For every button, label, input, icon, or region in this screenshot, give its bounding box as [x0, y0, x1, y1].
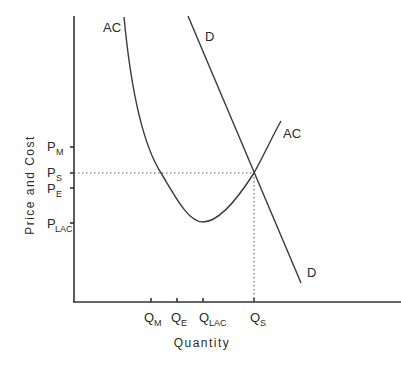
svg-text:P: P	[47, 181, 56, 196]
svg-text:M: M	[154, 318, 162, 328]
x-tick-label-qe: Q E	[171, 310, 187, 328]
x-tick-label-qs: Q S	[250, 310, 266, 328]
svg-text:Q: Q	[250, 310, 260, 325]
svg-text:E: E	[181, 318, 187, 328]
svg-text:Q: Q	[171, 310, 181, 325]
x-tick-label-qm: Q M	[144, 310, 162, 328]
y-tick-label-pe: P E	[47, 181, 62, 199]
y-axis-title: Price and Cost	[23, 135, 37, 235]
svg-text:P: P	[47, 139, 56, 154]
y-tick-label-pm: P M	[47, 139, 64, 157]
ac-curve	[124, 17, 281, 222]
demand-label-top: D	[205, 29, 214, 44]
svg-text:LAC: LAC	[209, 318, 227, 328]
x-tick-label-qlac: Q LAC	[199, 310, 227, 328]
demand-curve	[188, 16, 301, 283]
ac-label-right: AC	[283, 126, 301, 141]
y-tick-label-plac: P LAC	[47, 216, 73, 234]
svg-text:LAC: LAC	[55, 224, 73, 234]
svg-text:M: M	[56, 147, 64, 157]
svg-text:P: P	[47, 165, 56, 180]
x-axis-title: Quantity	[174, 336, 231, 350]
cost-demand-diagram: AC D AC D P M P S P E P LAC Q M Q E Q LA…	[0, 0, 401, 372]
svg-text:E: E	[56, 189, 62, 199]
svg-text:Q: Q	[144, 310, 154, 325]
ac-label-top: AC	[103, 20, 121, 35]
svg-text:S: S	[56, 173, 62, 183]
svg-text:S: S	[260, 318, 266, 328]
svg-text:Q: Q	[199, 310, 209, 325]
demand-label-bottom: D	[307, 265, 316, 280]
